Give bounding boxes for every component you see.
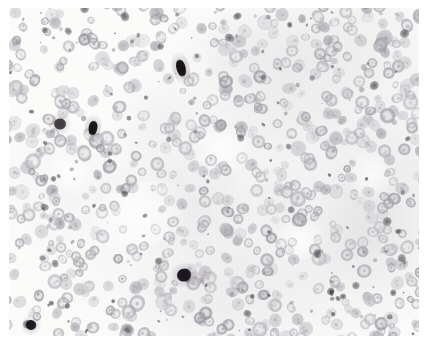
- histopathology-micrograph-image: [0, 0, 424, 346]
- micrograph-figure: [0, 0, 424, 346]
